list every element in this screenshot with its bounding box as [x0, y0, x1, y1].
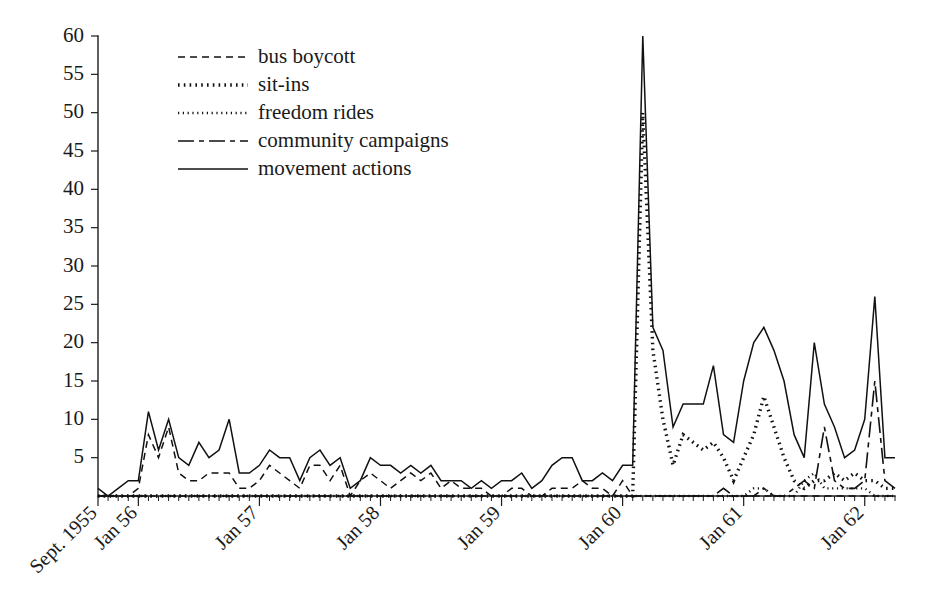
legend-label-sit-ins: sit-ins: [258, 72, 309, 96]
y-tick-label: 50: [63, 99, 84, 123]
line-chart: 51015202530354045505560 Sept. 1955Jan 56…: [0, 0, 930, 613]
y-tick-label: 35: [63, 214, 84, 238]
y-tick-label: 40: [63, 176, 84, 200]
legend-label-bus-boycott: bus boycott: [258, 44, 356, 68]
y-tick-label: 10: [63, 406, 84, 430]
chart-background: [0, 0, 930, 613]
legend-label-freedom-rides: freedom rides: [258, 100, 374, 124]
y-tick-label: 45: [63, 138, 84, 162]
y-tick-label: 60: [63, 23, 84, 47]
chart-container: 51015202530354045505560 Sept. 1955Jan 56…: [0, 0, 930, 613]
y-tick-label: 25: [63, 291, 84, 315]
y-tick-label: 55: [63, 61, 84, 85]
y-tick-label: 5: [74, 444, 85, 468]
y-tick-label: 30: [63, 253, 84, 277]
legend-label-movement-actions: movement actions: [258, 156, 411, 180]
legend-label-community-campaigns: community campaigns: [258, 128, 449, 152]
y-tick-label: 20: [63, 329, 84, 353]
y-tick-label: 15: [63, 368, 84, 392]
